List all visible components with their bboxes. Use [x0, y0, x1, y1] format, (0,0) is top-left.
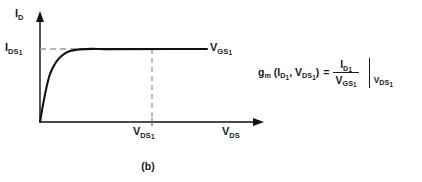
- formula-equals-sign: =: [323, 66, 329, 78]
- y-tick-label-ids1: IDS1: [5, 42, 22, 53]
- y-axis-label: ID: [15, 8, 24, 19]
- evaluation-bar: [369, 58, 370, 88]
- mosfet-transfer-characteristic-figure: [0, 0, 422, 182]
- curve-label-vgs1: VGS1: [210, 42, 232, 53]
- formula-fraction: ID1 VGS1: [333, 58, 358, 86]
- figure-background: [0, 0, 422, 182]
- formula-left-hand-side: gm (ID1, VDS1): [258, 66, 319, 78]
- formula-evaluated-at: VDS1: [374, 75, 393, 85]
- formula-denominator: VGS1: [333, 72, 358, 86]
- x-tick-label-vds1: VDS1: [133, 126, 155, 137]
- formula-numerator: ID1: [338, 58, 354, 71]
- transconductance-formula: gm (ID1, VDS1) = ID1 VGS1 VDS1: [258, 57, 393, 87]
- figure-caption: (b): [0, 160, 296, 172]
- x-axis-label: VDS: [222, 126, 240, 137]
